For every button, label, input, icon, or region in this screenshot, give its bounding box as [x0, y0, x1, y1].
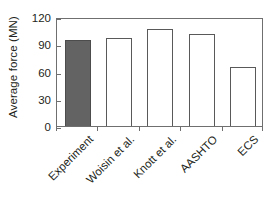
y-axis-tick-mark: [57, 46, 61, 47]
bar-slot: [223, 19, 264, 126]
y-axis-tick-label: 30: [38, 94, 51, 106]
bar-slot: [181, 19, 222, 126]
bar-ecs: [230, 67, 256, 126]
bar-woisin-et-al: [106, 38, 132, 126]
bar-knott-et-al: [147, 29, 173, 126]
bar-chart-figure: Average force (MN) 0306090120 Experiment…: [0, 0, 274, 199]
bar-group: [57, 19, 262, 126]
x-axis-tick-label: Knott et al.: [131, 133, 178, 180]
bar-slot: [140, 19, 181, 126]
y-axis-tick-mark: [57, 74, 61, 75]
y-axis-tick-mark: [57, 19, 61, 20]
y-axis-tick-label: 90: [38, 39, 51, 51]
y-axis-tick-label: 60: [38, 67, 51, 79]
bar-experiment: [65, 40, 91, 126]
bar-aashto: [189, 34, 215, 126]
plot-area: [56, 18, 263, 127]
y-axis-tick-label: 120: [32, 12, 51, 24]
x-axis-tick-label: AASHTO: [178, 133, 220, 175]
y-axis-title: Average force (MN): [7, 16, 19, 118]
bar-slot: [98, 19, 139, 126]
bar-slot: [57, 19, 98, 126]
y-axis-tick-mark: [57, 101, 61, 102]
y-axis-tick-labels: 0306090120: [22, 18, 51, 127]
x-axis-tick-labels: ExperimentWoisin et al.Knott et al.AASHT…: [0, 127, 274, 199]
x-axis-tick-label: ECS: [236, 133, 261, 158]
